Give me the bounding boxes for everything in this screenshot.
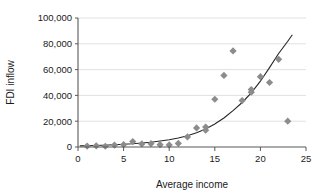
- x-axis-title: Average income: [156, 179, 229, 190]
- chart-container: 020,00040,00060,00080,000100,000 0510152…: [0, 0, 323, 195]
- y-tick-label: 20,000: [43, 116, 72, 127]
- x-tick-label: 0: [75, 153, 80, 164]
- y-tick-label: 0: [67, 141, 72, 152]
- x-tick-label: 20: [255, 153, 266, 164]
- y-tick-label: 40,000: [43, 90, 72, 101]
- scatter-chart: 020,00040,00060,00080,000100,000 0510152…: [0, 0, 323, 195]
- y-tick-label: 80,000: [43, 38, 72, 49]
- y-tick-label: 100,000: [38, 12, 72, 23]
- y-axis-title: FDI inflow: [5, 59, 16, 104]
- y-tick-label: 60,000: [43, 64, 72, 75]
- x-tick-label: 10: [164, 153, 175, 164]
- x-tick-label: 5: [121, 153, 126, 164]
- x-tick-label: 25: [301, 153, 312, 164]
- x-tick-label: 15: [210, 153, 221, 164]
